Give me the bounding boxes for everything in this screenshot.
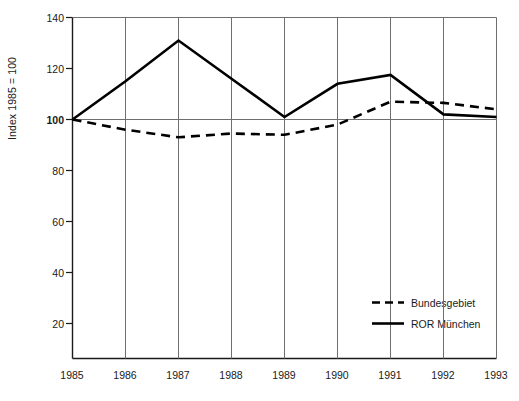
legend-swatches — [372, 303, 404, 324]
y-axis-ticks — [66, 18, 73, 324]
line-chart: Index 1985 = 100 140 120 100 80 60 40 20… — [0, 0, 519, 401]
plot-area — [0, 0, 519, 401]
gridlines — [73, 18, 497, 359]
